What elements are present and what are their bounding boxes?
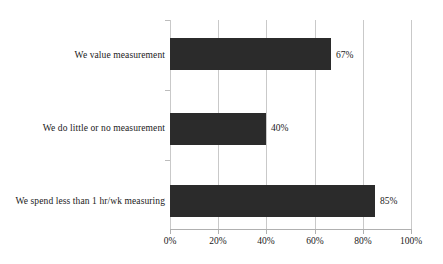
bar-we-do-little-or-no-measurement bbox=[170, 113, 266, 145]
x-tick-80 bbox=[363, 230, 364, 234]
x-tick-40 bbox=[266, 230, 267, 234]
x-tick-20 bbox=[218, 230, 219, 234]
value-label-0: 67% bbox=[336, 50, 353, 60]
xtick-label-3: 60% bbox=[295, 236, 335, 246]
bar-chart: We value measurement We do little or no … bbox=[0, 0, 443, 264]
x-tick-100 bbox=[411, 230, 412, 234]
xtick-label-2: 40% bbox=[246, 236, 286, 246]
category-label-1: We do little or no measurement bbox=[0, 123, 165, 133]
x-tick-60 bbox=[315, 230, 316, 234]
xtick-label-1: 20% bbox=[198, 236, 238, 246]
value-label-1: 40% bbox=[271, 123, 288, 133]
xtick-label-4: 80% bbox=[343, 236, 383, 246]
xtick-label-5: 100% bbox=[391, 236, 431, 246]
category-label-0-text: We value measurement bbox=[75, 50, 165, 60]
x-axis-line bbox=[170, 229, 412, 230]
category-label-1-text: We do little or no measurement bbox=[43, 123, 165, 133]
gridline-100 bbox=[411, 20, 412, 230]
category-label-0: We value measurement bbox=[0, 50, 165, 60]
value-label-2: 85% bbox=[380, 196, 397, 206]
xtick-label-0: 0% bbox=[150, 236, 190, 246]
category-label-2-text: We spend less than 1 hr/wk measuring bbox=[15, 196, 165, 206]
y-tick-0 bbox=[165, 20, 170, 21]
bar-we-value-measurement bbox=[170, 38, 331, 70]
category-label-2: We spend less than 1 hr/wk measuring bbox=[0, 196, 165, 206]
x-tick-0 bbox=[170, 230, 171, 234]
y-tick-2 bbox=[165, 160, 170, 161]
plot-area bbox=[170, 20, 411, 230]
bar-we-spend-less-than-1-hr-wk-measuring bbox=[170, 185, 375, 217]
y-tick-1 bbox=[165, 90, 170, 91]
